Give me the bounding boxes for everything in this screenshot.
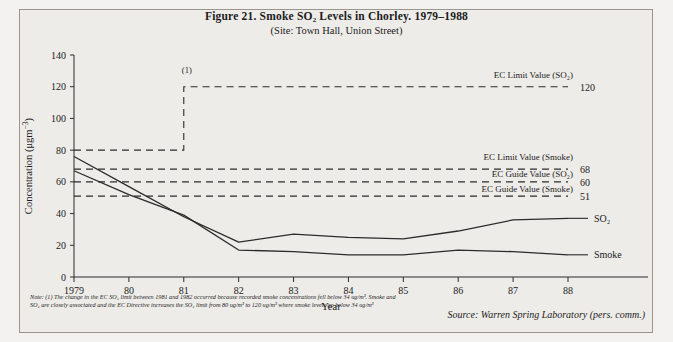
axes-layer: 1401201008060402001979808182838485868788…	[21, 50, 649, 313]
x-axis-tick-label: 87	[508, 285, 518, 296]
so2-smoke-line-chart: 1401201008060402001979808182838485868788…	[0, 0, 673, 342]
x-axis-tick-label: 88	[563, 285, 573, 296]
chart-labels-layer: (1)EC Limit Value (SO₂)120EC Limit Value…	[182, 65, 623, 261]
series-label-so2: SO₂	[594, 213, 610, 224]
reference-lines-layer	[74, 87, 568, 196]
y-axis-tick-label: 60	[56, 176, 66, 187]
reference-value-ec-limit-so2: 120	[580, 82, 595, 93]
x-axis-tick-label: 86	[453, 285, 463, 296]
reference-label-ec-guide-so2: EC Guide Value (SO₂)	[492, 169, 573, 179]
y-axis-tick-label: 120	[51, 81, 66, 92]
y-axis-tick-label: 140	[51, 50, 66, 61]
y-axis-tick-label: 20	[56, 240, 66, 251]
series-label-smoke: Smoke	[594, 249, 622, 260]
reference-value-ec-guide-so2: 60	[580, 177, 590, 188]
reference-label-ec-limit-smoke: EC Limit Value (Smoke)	[483, 152, 573, 162]
reference-line-ec-limit-so2	[74, 87, 568, 150]
reference-label-ec-limit-so2: EC Limit Value (SO₂)	[494, 70, 573, 80]
figure-note: Note: (1) The change in the EC SO₂ limit…	[30, 293, 405, 308]
step-callout-label: (1)	[182, 65, 192, 75]
y-axis-tick-label: 0	[61, 272, 66, 283]
reference-label-ec-guide-smoke: EC Guide Value (Smoke)	[481, 184, 573, 194]
y-axis-tick-label: 100	[51, 113, 66, 124]
chart-canvas: 1401201008060402001979808182838485868788…	[0, 0, 673, 342]
reference-value-ec-guide-smoke: 51	[580, 191, 590, 202]
reference-value-ec-limit-smoke: 68	[580, 164, 590, 175]
y-axis-tick-label: 40	[56, 208, 66, 219]
y-axis-tick-label: 80	[56, 145, 66, 156]
figure-source: Source: Warren Spring Laboratory (pers. …	[448, 309, 646, 320]
y-axis-title: Concentration (μgm−3)	[21, 117, 36, 214]
